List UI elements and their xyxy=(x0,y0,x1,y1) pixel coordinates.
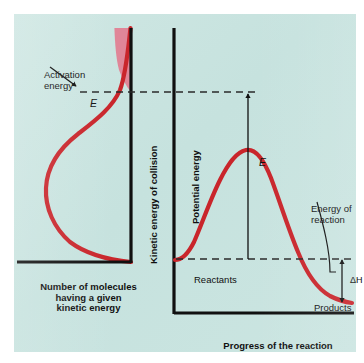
right-plot-x-axis-title: Progress of the reaction xyxy=(190,341,364,352)
left-plot-x-axis-title: Number of molecules having a given kinet… xyxy=(31,282,146,314)
figure-root: Activation energy E Kinetic energy of co… xyxy=(0,0,364,363)
activation-energy-label: Activation energy xyxy=(44,70,85,91)
products-label: Products xyxy=(314,303,352,314)
left-plot-y-axis-title: Kinetic energy of collision xyxy=(149,146,160,264)
activation-energy-symbol-right: E xyxy=(259,157,266,169)
left-plot-axes xyxy=(17,28,131,263)
reactants-label: Reactants xyxy=(194,275,237,286)
energy-of-reaction-label: Energy of reaction xyxy=(311,204,352,225)
right-plot-y-axis-title: Potential energy xyxy=(191,150,202,224)
activation-energy-symbol-left: E xyxy=(90,98,97,110)
diagram-panel: Activation energy E Kinetic energy of co… xyxy=(14,14,356,352)
enthalpy-change-label: ΔH xyxy=(350,275,363,285)
